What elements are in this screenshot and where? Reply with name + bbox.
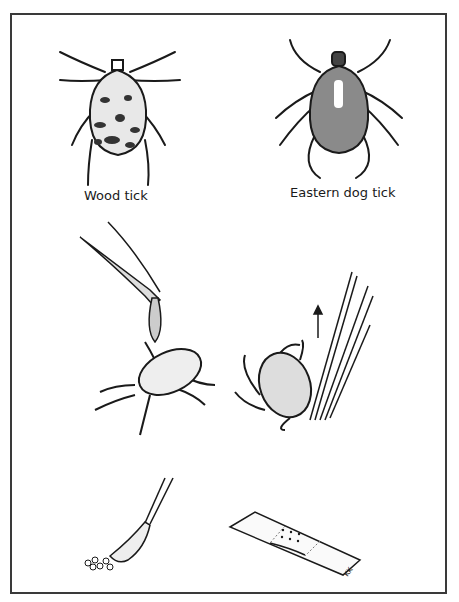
bandage-icon bbox=[0, 0, 459, 602]
